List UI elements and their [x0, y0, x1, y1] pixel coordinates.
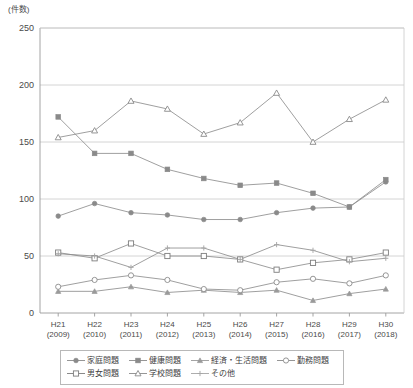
legend-label: 勤務問題: [297, 355, 329, 366]
data-point-4-9: [383, 250, 388, 255]
legend-item-1-2[interactable]: 経済・生活問題: [190, 355, 267, 366]
data-point-0-2: [129, 210, 134, 215]
data-point-4-6: [274, 267, 279, 272]
data-point-0-6: [274, 210, 279, 215]
legend-marker-open-triangle: [128, 368, 148, 379]
series-line-5: [58, 93, 386, 142]
y-axis-tick-250: 250: [19, 23, 34, 33]
legend-item-2-1[interactable]: 学校問題: [128, 368, 181, 379]
series-markers-1: [56, 115, 388, 210]
data-point-1-2: [129, 151, 134, 156]
data-point-1-8: [347, 205, 352, 210]
y-axis-tick-0: 0: [29, 308, 34, 318]
x-axis-tick-label-0: H21: [51, 320, 66, 329]
x-axis-tick-label-5: H26: [233, 320, 248, 329]
series-line-0: [58, 182, 386, 220]
line-chart: (件数) 050100150200250H21(2009)H22(2010)H2…: [0, 0, 413, 388]
x-axis-tick-year-3: (2012): [156, 330, 179, 339]
data-point-0-3: [165, 213, 170, 218]
series-0: [58, 182, 386, 220]
legend-item-1-0[interactable]: 家庭問題: [66, 355, 119, 366]
legend-marker-filled-circle: [66, 355, 86, 366]
legend-marker-filled-square: [128, 355, 148, 366]
x-axis-tick-label-6: H27: [269, 320, 284, 329]
data-point-5-6: [274, 90, 280, 95]
legend-label: 健康問題: [149, 355, 181, 366]
x-axis-tick-label-2: H23: [124, 320, 139, 329]
y-axis-tick-150: 150: [19, 137, 34, 147]
data-point-6-3: [165, 245, 170, 250]
legend-marker-plus: [190, 368, 210, 379]
series-markers-5: [55, 90, 389, 144]
data-point-3-4: [201, 286, 206, 291]
x-axis-tick-label-4: H25: [196, 320, 211, 329]
series-line-3: [58, 275, 386, 290]
data-point-4-3: [165, 253, 170, 258]
legend-item-2-2[interactable]: その他: [190, 368, 235, 379]
data-point-1-7: [311, 191, 316, 196]
legend-marker-glyph: [283, 358, 288, 363]
data-point-5-2: [128, 98, 134, 103]
data-point-3-5: [238, 288, 243, 293]
plot-area: 050100150200250H21(2009)H22(2010)H23(201…: [0, 0, 413, 348]
legend-item-2-0[interactable]: 男女問題: [66, 368, 119, 379]
data-point-6-6: [274, 242, 279, 247]
data-point-5-8: [346, 116, 352, 121]
legend-item-1-3[interactable]: 勤務問題: [276, 355, 329, 366]
x-axis-tick-year-8: (2017): [338, 330, 361, 339]
x-axis-tick-year-6: (2015): [265, 330, 288, 339]
data-point-3-8: [347, 281, 352, 286]
data-point-3-6: [274, 280, 279, 285]
x-axis-tick-year-0: (2009): [47, 330, 70, 339]
x-axis-tick-year-9: (2018): [374, 330, 397, 339]
data-point-1-3: [165, 167, 170, 172]
data-point-0-4: [202, 217, 207, 222]
data-point-3-9: [383, 273, 388, 278]
data-point-1-6: [274, 181, 279, 186]
data-point-2-9: [383, 286, 388, 291]
data-point-0-1: [92, 201, 97, 206]
y-axis-tick-50: 50: [24, 251, 34, 261]
data-point-3-7: [310, 276, 315, 281]
legend-item-1-1[interactable]: 健康問題: [128, 355, 181, 366]
series-2: [58, 287, 386, 301]
series-4: [58, 243, 386, 269]
series-1: [58, 117, 386, 207]
x-axis-tick-year-5: (2014): [229, 330, 252, 339]
series-5: [58, 93, 386, 142]
legend-marker-glyph: [74, 358, 79, 363]
legend-marker-filled-triangle: [190, 355, 210, 366]
x-axis-tick-label-9: H30: [378, 320, 393, 329]
series-markers-4: [56, 241, 389, 272]
data-point-0-0: [56, 214, 61, 219]
x-axis-tick-year-1: (2010): [83, 330, 106, 339]
legend-marker-open-square: [66, 368, 86, 379]
data-point-3-3: [165, 277, 170, 282]
data-point-6-9: [383, 256, 388, 261]
data-point-4-2: [128, 241, 133, 246]
legend-marker-glyph: [136, 358, 141, 363]
data-point-1-9: [384, 177, 389, 182]
legend-marker-glyph: [73, 371, 78, 376]
legend-marker-open-circle: [276, 355, 296, 366]
x-axis-tick-label-7: H28: [306, 320, 321, 329]
data-point-3-1: [92, 277, 97, 282]
data-point-0-7: [311, 206, 316, 211]
data-point-6-7: [310, 248, 315, 253]
data-point-1-0: [56, 115, 61, 120]
data-point-4-4: [201, 253, 206, 258]
data-point-1-5: [238, 183, 243, 188]
x-axis-tick-year-4: (2013): [192, 330, 215, 339]
y-axis-tick-200: 200: [19, 80, 34, 90]
data-point-1-1: [92, 151, 97, 156]
legend-label: 男女問題: [87, 368, 119, 379]
legend-label: 家庭問題: [87, 355, 119, 366]
legend-row-1: 家庭問題健康問題経済・生活問題勤務問題: [66, 354, 338, 367]
series-3: [58, 275, 386, 290]
data-point-3-2: [128, 273, 133, 278]
data-point-5-9: [383, 97, 389, 102]
legend-label: 学校問題: [149, 368, 181, 379]
data-point-2-2: [128, 284, 133, 289]
data-point-3-0: [56, 284, 61, 289]
y-axis-tick-100: 100: [19, 194, 34, 204]
